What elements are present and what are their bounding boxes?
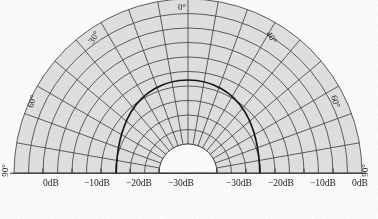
angle-label-0: 0° — [178, 3, 186, 12]
angle-label-90-left: 90° — [1, 164, 10, 177]
polar-grid-area — [14, 0, 362, 173]
db-label-left-10: −10dB — [84, 179, 110, 189]
db-label-right-10: −10dB — [310, 179, 336, 189]
db-label-right-20: −20dB — [268, 179, 294, 189]
db-label-right-30: −30dB — [226, 179, 252, 189]
db-label-left-20: −20dB — [126, 179, 152, 189]
caption-fragment — [0, 213, 378, 219]
db-label-left-30: −30dB — [168, 179, 194, 189]
db-label-left-0: 0dB — [43, 179, 59, 189]
db-label-right-0: 0dB — [352, 179, 368, 189]
angle-label-90-right: 90° — [361, 164, 370, 177]
